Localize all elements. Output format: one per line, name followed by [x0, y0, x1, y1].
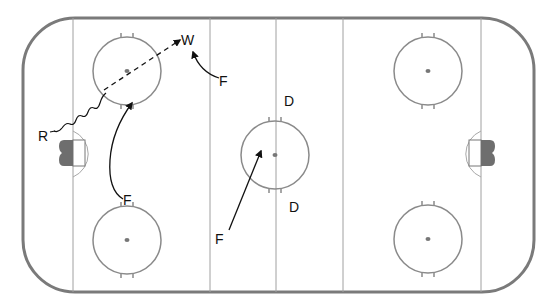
- rink-boards: [23, 18, 534, 292]
- label-d-bottom: D: [289, 199, 299, 215]
- label-f-center: F: [215, 231, 224, 247]
- label-r: R: [38, 128, 48, 144]
- label-w: W: [181, 32, 195, 48]
- crease-box-right: [469, 140, 481, 166]
- label-f-left-bottom: F: [123, 192, 132, 208]
- label-d-top: D: [284, 93, 294, 109]
- hockey-rink-diagram: W F F F D D R: [0, 0, 552, 308]
- label-f-top: F: [219, 73, 228, 89]
- crease-box-left: [73, 140, 85, 166]
